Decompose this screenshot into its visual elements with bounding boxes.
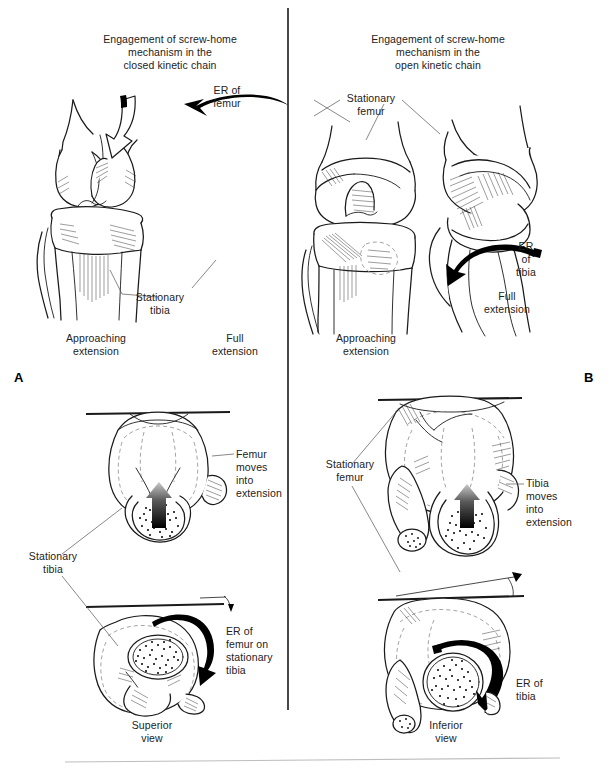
er-tibia-inf-line2: tibia [516,690,568,703]
er-of-tibia-inferior-label: ER of tibia [516,677,568,703]
panel-b-inferior-view-rotation [0,0,612,772]
rotation-tick-b [396,572,522,596]
medial-flare-b2 [485,692,500,715]
figure-canvas: Engagement of screw-home mechanism in th… [0,0,612,772]
inferior-view-line2: view [404,732,488,745]
er-tibia-inf-line1: ER of [516,677,568,690]
panel-b-view-inferior-label: Inferior view [404,719,488,745]
tibial-shaft-inferior-b2 [423,653,483,711]
inferior-view-line1: Inferior [404,719,488,732]
